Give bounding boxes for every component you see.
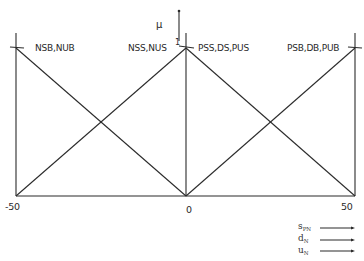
legend-subscript: PN [303,226,312,232]
legend-arrowhead-icon [351,239,355,242]
mf-label-psb-db-pub: PSB,DB,PUB [287,43,339,53]
mu-arrow-tip-icon [178,10,181,13]
right-peak-tick [348,47,362,48]
mf-label-nss-nus: NSS,NUS [128,43,167,53]
left-peak-tick [10,47,24,48]
peak-value-label: 1 [175,38,180,48]
mf-label-pss-ds-pus: PSS,DS,PUS [198,43,249,53]
legend-symbol-u-n: uN [298,245,309,258]
mu-axis-label: μ [156,20,162,30]
x-tick-50: 50 [341,202,353,212]
legend-subscript: N [304,250,309,256]
x-tick-minus-50: -50 [5,202,20,212]
legend-subscript: N [304,238,309,244]
legend-arrowhead-icon [351,227,355,230]
legend-arrowhead-icon [351,250,355,253]
x-tick-0: 0 [186,205,192,215]
mf-label-nsb-nub: NSB,NUB [35,43,75,53]
